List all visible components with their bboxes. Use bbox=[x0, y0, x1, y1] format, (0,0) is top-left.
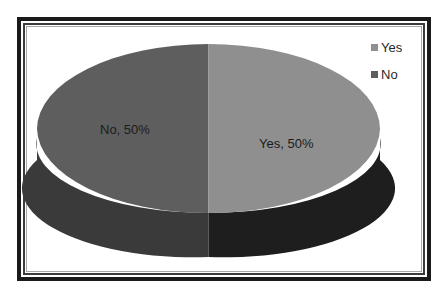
legend-swatch-yes bbox=[371, 44, 378, 51]
legend-item-no: No bbox=[371, 67, 402, 81]
data-label-yes: Yes, 50% bbox=[259, 136, 314, 151]
legend-label-yes: Yes bbox=[381, 40, 402, 55]
legend-swatch-no bbox=[371, 71, 378, 78]
legend-label-no: No bbox=[381, 67, 398, 82]
legend-item-yes: Yes bbox=[371, 40, 402, 54]
data-label-no: No, 50% bbox=[100, 122, 150, 137]
chart-legend: Yes No bbox=[371, 40, 402, 94]
